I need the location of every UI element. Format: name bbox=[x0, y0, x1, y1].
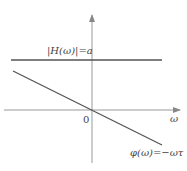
magnitude-label: |H(ω)|=a bbox=[47, 46, 93, 56]
phase-label: φ(ω)=−ωτ bbox=[130, 148, 183, 158]
x-axis-label: ω bbox=[170, 114, 178, 124]
phase-line bbox=[13, 71, 162, 145]
origin-label: 0 bbox=[83, 115, 89, 125]
diagram-canvas bbox=[0, 0, 187, 171]
